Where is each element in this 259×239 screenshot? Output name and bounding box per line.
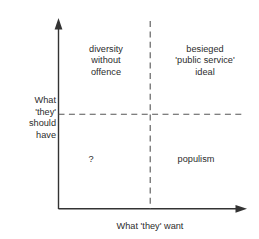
- quadrant-label-bottom-right: populism: [155, 154, 237, 165]
- y-axis-label: What'they'shouldhave: [2, 95, 56, 141]
- x-axis-arrowhead: [236, 205, 248, 213]
- quadrant-diagram: diversity without offence besieged 'publ…: [0, 0, 259, 239]
- quadrant-label-top-left: diversity without offence: [62, 44, 150, 78]
- x-axis-label: What 'they' want: [88, 221, 212, 233]
- quadrant-label-bottom-left: ?: [62, 154, 120, 165]
- y-axis-arrowhead: [55, 18, 63, 30]
- quadrant-label-top-right: besieged 'public service' ideal: [155, 44, 255, 78]
